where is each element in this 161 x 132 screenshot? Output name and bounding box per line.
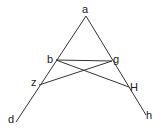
label-g: g	[113, 53, 119, 65]
line-ad	[16, 16, 86, 122]
label-d: d	[8, 113, 14, 125]
geometry-diagram: a b g z H d h	[0, 0, 161, 132]
label-b: b	[47, 53, 53, 65]
label-z: z	[31, 76, 37, 88]
label-a: a	[82, 3, 89, 15]
line-bg	[56, 60, 112, 61]
line-ah	[86, 16, 146, 115]
label-h: h	[146, 109, 152, 121]
label-H: H	[130, 81, 138, 93]
